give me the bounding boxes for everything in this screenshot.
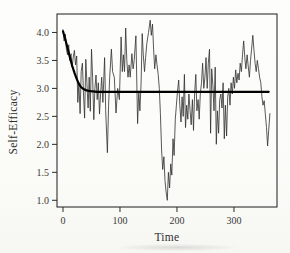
y-axis-label: Self-Efficacy — [7, 90, 20, 155]
y-tick-label: 4.0 — [37, 27, 50, 38]
fitted-trend-path — [63, 31, 269, 92]
x-tick-label: 200 — [169, 215, 184, 226]
self-efficacy-figure: 1.01.52.02.53.03.54.00100200300 Time Sel… — [0, 0, 290, 253]
y-tick-label: 2.5 — [37, 111, 50, 122]
x-tick-label: 300 — [226, 215, 241, 226]
series-lines — [63, 20, 270, 200]
y-tick-label: 3.0 — [37, 83, 50, 94]
observed-self-efficacy-path — [63, 20, 270, 200]
x-tick-label: 100 — [112, 215, 127, 226]
x-tick-label: 0 — [60, 215, 65, 226]
self-efficacy-chart: 1.01.52.02.53.03.54.00100200300 Time Sel… — [0, 0, 290, 253]
y-tick-label: 1.5 — [37, 167, 50, 178]
y-tick-label: 1.0 — [37, 195, 50, 206]
y-tick-label: 3.5 — [37, 55, 50, 66]
y-tick-label: 2.0 — [37, 139, 50, 150]
x-axis-label: Time — [154, 231, 179, 243]
